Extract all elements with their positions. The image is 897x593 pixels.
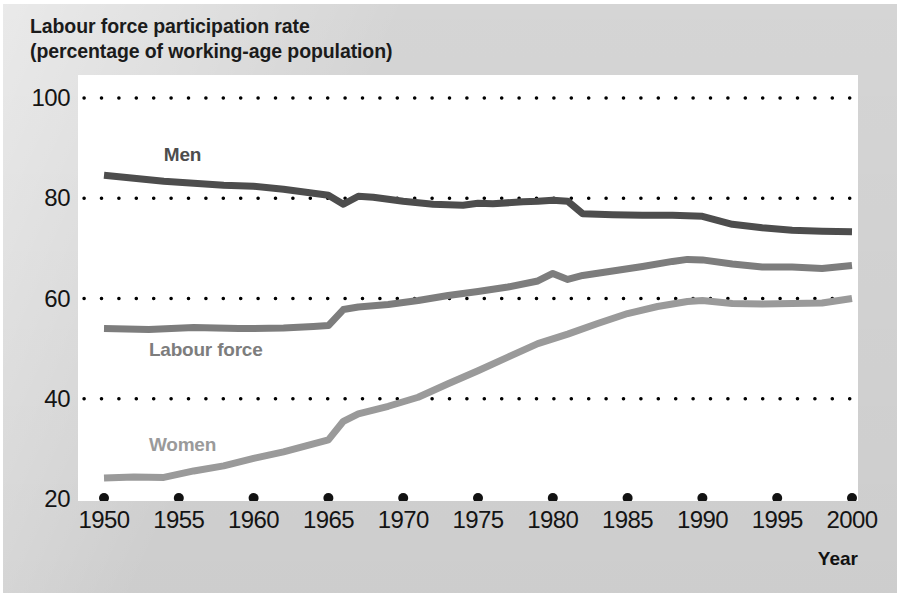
x-axis-tick-dot	[323, 493, 333, 501]
x-tick-label: 1955	[153, 508, 204, 532]
x-tick-label: 1965	[303, 508, 354, 532]
y-tick-label: 40	[44, 387, 70, 411]
x-tick-label: 1970	[378, 508, 429, 532]
x-axis-tick-dot	[697, 493, 707, 501]
x-tick-label: 1950	[79, 508, 130, 532]
series-label-women: Women	[149, 434, 216, 456]
x-axis-tick-dot	[772, 493, 782, 501]
series-line-labour-force	[104, 259, 852, 329]
x-axis-tick-dot	[249, 493, 259, 501]
y-tick-label: 100	[31, 86, 70, 110]
x-tick-label: 1990	[677, 508, 728, 532]
chart-title-line-1: Labour force participation rate	[30, 14, 590, 39]
x-axis-tick-dot	[398, 493, 408, 501]
y-axis-tick-labels: 20406080100	[6, 75, 70, 501]
chart-subtitle: (percentage of working-age population)	[30, 39, 590, 64]
series-label-labour-force: Labour force	[149, 339, 263, 361]
x-axis-tick-dot	[174, 493, 184, 501]
x-tick-label: 2000	[827, 508, 878, 532]
x-axis-tick-dot	[548, 493, 558, 501]
x-tick-label: 1975	[453, 508, 504, 532]
y-tick-label: 60	[44, 287, 70, 311]
x-tick-label: 1995	[752, 508, 803, 532]
chart-title: Labour force participation rate (percent…	[30, 14, 590, 64]
series-label-men: Men	[164, 144, 201, 166]
x-axis-tick-dot	[623, 493, 633, 501]
chart-figure: Labour force participation rate (percent…	[0, 0, 897, 593]
x-axis-tick-dot	[473, 493, 483, 501]
series-line-men	[104, 175, 852, 232]
x-axis-tick-dot	[847, 493, 857, 501]
y-tick-label: 80	[44, 186, 70, 210]
x-axis-tick-labels: 1950195519601965197019751980198519901995…	[78, 508, 858, 542]
x-tick-label: 1985	[602, 508, 653, 532]
x-axis-tick-dot	[99, 493, 109, 501]
x-axis-title: Year	[818, 548, 858, 570]
x-tick-label: 1980	[527, 508, 578, 532]
x-tick-label: 1960	[228, 508, 279, 532]
y-tick-label: 20	[44, 487, 70, 511]
